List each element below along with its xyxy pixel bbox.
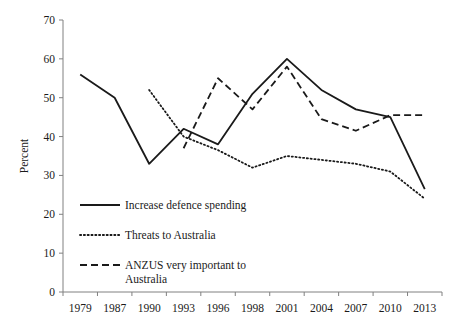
series-line-increase-defence-spending: [80, 59, 425, 189]
x-tick-label: 2013: [413, 302, 436, 314]
y-tick-label: 60: [44, 53, 56, 65]
x-tick-label: 2004: [310, 302, 333, 314]
x-tick-label: 1993: [172, 302, 195, 314]
legend-label: Increase defence spending: [125, 199, 247, 212]
x-tick-label: 1990: [138, 302, 161, 314]
y-tick-label: 70: [44, 14, 56, 26]
y-axis-title: Percent: [18, 138, 30, 173]
y-tick-label: 10: [44, 247, 56, 259]
y-tick-label: 0: [49, 286, 55, 298]
chart-canvas: 010203040506070Percent197919871990199319…: [0, 0, 453, 331]
legend-label: Threats to Australia: [125, 229, 216, 241]
x-tick-label: 1996: [207, 302, 230, 314]
series-line-threats-to-australia: [149, 90, 425, 199]
y-tick-label: 50: [44, 92, 56, 104]
legend-label-line2: Australia: [125, 273, 167, 285]
y-tick-label: 30: [44, 169, 56, 181]
line-chart: 010203040506070Percent197919871990199319…: [0, 0, 453, 331]
x-tick-label: 1987: [103, 302, 126, 314]
x-tick-label: 1998: [241, 302, 264, 314]
y-tick-label: 40: [44, 131, 56, 143]
y-tick-label: 20: [44, 208, 56, 220]
x-tick-label: 2001: [275, 302, 298, 314]
x-tick-label: 2007: [344, 302, 367, 314]
legend-label: ANZUS very important to: [125, 259, 246, 272]
x-tick-label: 2010: [379, 302, 402, 314]
series-line-anzus-very-important-to-australia: [184, 67, 425, 149]
x-tick-label: 1979: [69, 302, 92, 314]
